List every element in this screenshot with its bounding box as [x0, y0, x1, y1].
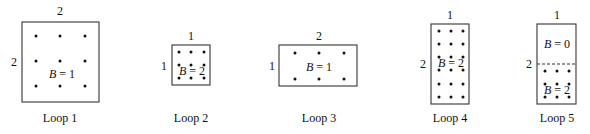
- loop-5-caption: Loop 5: [540, 111, 574, 125]
- loop-3-field-label: B = 1: [306, 60, 332, 74]
- loop-2-left-dimension: 1: [161, 59, 167, 73]
- loop-4-top-dimension: 1: [447, 8, 453, 22]
- loop-1-field-label: B = 1: [49, 67, 75, 81]
- loop-5-lower-field-label: B = 2: [544, 83, 570, 97]
- loop-3-left-dimension: 1: [269, 59, 275, 73]
- loop-4: 1 2 B = 2 Loop 4: [420, 8, 469, 125]
- loop-1-left-dimension: 2: [11, 55, 17, 69]
- magnetic-field-loops-diagram: 2 2 B = 1 Loop 1 1 1 B = 2 Loop 2 2 1 B …: [0, 0, 590, 134]
- loop-3-caption: Loop 3: [302, 111, 336, 125]
- loop-2-top-dimension: 1: [188, 29, 194, 43]
- loop-2-field-label: B = 2: [179, 64, 205, 78]
- loop-5-top-dimension: 1: [554, 8, 560, 22]
- loop-3-top-dimension: 2: [316, 29, 322, 43]
- loop-2-caption: Loop 2: [174, 111, 208, 125]
- loop-4-caption: Loop 4: [433, 111, 467, 125]
- loop-5: 1 2 B = 0 B = 2 Loop 5: [526, 8, 576, 125]
- loop-1-caption: Loop 1: [43, 111, 77, 125]
- loop-4-field-label: B = 2: [438, 56, 464, 70]
- loop-2: 1 1 B = 2 Loop 2: [161, 29, 210, 125]
- loop-5-left-dimension: 2: [526, 57, 532, 71]
- loop-1-top-dimension: 2: [57, 4, 63, 18]
- loop-4-left-dimension: 2: [420, 57, 426, 71]
- loop-1: 2 2 B = 1 Loop 1: [11, 4, 99, 125]
- loop-5-upper-field-label: B = 0: [544, 37, 570, 51]
- loop-3: 2 1 B = 1 Loop 3: [269, 29, 357, 125]
